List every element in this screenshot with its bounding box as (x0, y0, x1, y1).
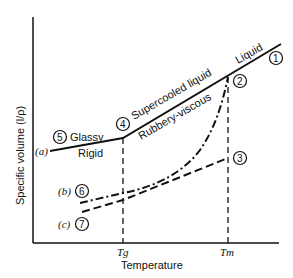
svg-text:4: 4 (120, 119, 126, 130)
point-4: 4 (117, 118, 130, 131)
label-curve-b: (b) (58, 185, 71, 198)
x-axis-title: Temperature (121, 259, 183, 271)
curve-c (82, 158, 228, 212)
point-5: 5 (54, 131, 67, 144)
svg-text:2: 2 (237, 76, 243, 87)
tick-tm: Tm (220, 246, 234, 258)
label-glassy: Glassy (70, 131, 104, 143)
label-curve-a: (a) (35, 145, 48, 158)
label-liquid: Liquid (233, 41, 264, 66)
diagram: Liquid Supercooled liquid Rubbery-viscou… (0, 0, 293, 278)
svg-text:7: 7 (79, 219, 85, 230)
point-3: 3 (234, 152, 247, 165)
svg-text:6: 6 (79, 186, 85, 197)
point-7: 7 (76, 218, 89, 231)
tick-tg: Tg (117, 246, 129, 258)
label-rigid: Rigid (78, 147, 103, 159)
svg-text:5: 5 (57, 132, 63, 143)
y-axis-title: Specific volume (l/ρ) (14, 106, 26, 205)
point-2: 2 (234, 75, 247, 88)
svg-text:3: 3 (237, 153, 243, 164)
svg-text:1: 1 (273, 53, 279, 64)
point-1: 1 (270, 52, 283, 65)
label-curve-c: (c) (58, 218, 71, 231)
point-6: 6 (76, 185, 89, 198)
